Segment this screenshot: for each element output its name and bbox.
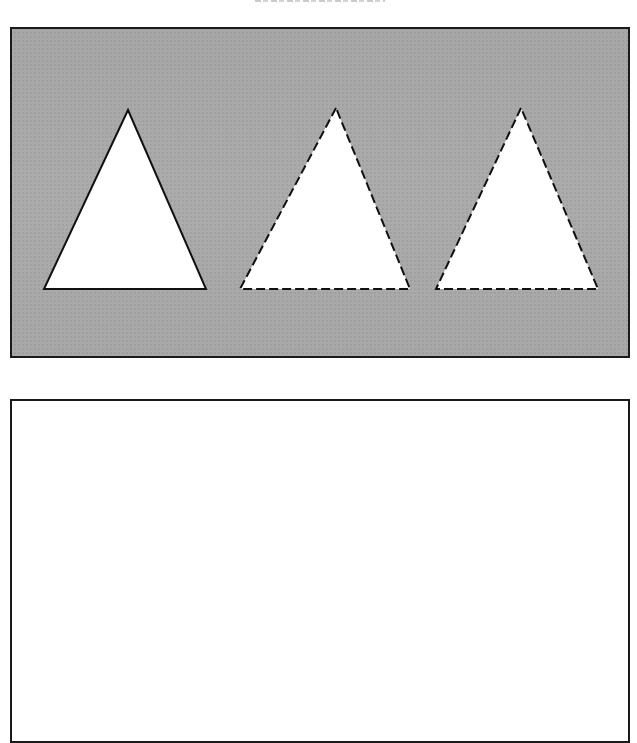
triangle-dashed-icon	[240, 108, 410, 289]
triangle-solid-icon	[44, 110, 206, 289]
triangle-dashed-icon	[436, 108, 598, 289]
clipped-caption	[255, 0, 385, 3]
triangles-canvas	[12, 29, 628, 356]
bottom-panel-empty	[10, 399, 630, 743]
top-panel-gray	[10, 27, 630, 358]
caption-remnant	[255, 0, 385, 2]
